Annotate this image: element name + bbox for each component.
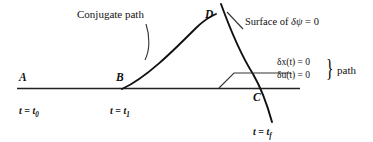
path-word-label: path (337, 65, 356, 76)
point-label-b: B (116, 72, 124, 84)
time-t1-lhs: t (110, 105, 113, 116)
time-t1-subscript: 1 (126, 111, 130, 119)
surface-psi-symbol: ψ (296, 16, 303, 27)
conjugate-path-diagram: Conjugate path Surface of δψ = 0 A B C D… (0, 0, 373, 142)
point-label-d: D (205, 9, 213, 21)
time-tf-equals: = (258, 126, 264, 137)
conjugate-path-curve (122, 14, 216, 89)
conjugate-path-leader-line (145, 24, 149, 60)
surface-equals-zero: = 0 (305, 16, 319, 27)
time-t0-subscript: 0 (35, 111, 39, 119)
point-label-c: C (253, 92, 261, 104)
time-t0-equals: = (24, 105, 30, 116)
time-t0-lhs: t (19, 105, 22, 116)
surface-delta-psi-label: Surface of δψ = 0 (245, 17, 319, 28)
time-t1-equals: = (115, 105, 121, 116)
time-tf-subscript: f (269, 132, 271, 140)
time-label-tf: t = tf (253, 127, 272, 140)
conditions-brace: } (326, 55, 333, 80)
delta-u-condition: δu(t) = 0 (277, 71, 310, 81)
time-label-t1: t = t1 (110, 106, 130, 119)
time-tf-lhs: t (253, 126, 256, 137)
time-label-t0: t = t0 (19, 106, 39, 119)
conjugate-path-label: Conjugate path (77, 9, 144, 20)
delta-x-condition: δx(t) = 0 (277, 58, 310, 68)
point-label-a: A (19, 72, 27, 84)
surface-of-text: Surface of (245, 16, 288, 27)
